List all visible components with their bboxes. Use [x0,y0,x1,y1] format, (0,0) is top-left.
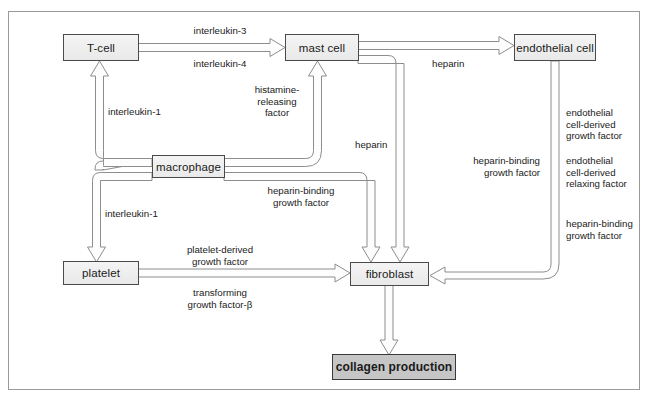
node-platelet-label: platelet [82,267,120,279]
node-collagen-production-label: collagen production [336,360,453,374]
node-macrophage[interactable]: macrophage [152,155,225,178]
edge-fibroblast-collagen [380,284,398,355]
node-collagen-production[interactable]: collagen production [332,354,456,380]
node-t-cell[interactable]: T-cell [63,34,139,61]
edge-label-histamine-releasing-factor: histamine- releasing factor [243,84,311,119]
node-fibroblast-label: fibroblast [366,268,414,280]
edge-label-heparin-binding-growth-factor-mid: heparin-binding growth factor [440,155,540,178]
node-endothelial-cell-label: endothelial cell [516,42,594,54]
edge-label-endothelial-cell-derived-growth-factor: endothelial cell-derived growth factor [566,107,650,142]
edge-label-interleukin-4: interleukin-4 [160,58,280,70]
edge-label-heparin-binding-growth-factor-macrophage: heparin-binding growth factor [246,185,356,208]
edge-label-endothelial-cell-derived-relaxing-factor: endothelial cell-derived relaxing factor [566,155,650,190]
edge-label-platelet-derived-growth-factor: platelet-derived growth factor [160,244,280,267]
edge-label-interleukin-3: interleukin-3 [160,25,280,37]
node-t-cell-label: T-cell [87,42,115,54]
edge-tcell-mastcell [138,39,285,57]
edge-label-heparin-endothelial: heparin [432,58,502,70]
edge-label-heparin-binding-growth-factor-lower: heparin-binding growth factor [566,218,650,241]
node-macrophage-label: macrophage [156,161,221,173]
edge-label-heparin-fibroblast: heparin [355,139,425,151]
diagram-canvas: .w{fill:#fdfdfd;stroke:#8d8d8d;stroke-wi… [0,0,650,400]
edge-label-interleukin-1-tcell: interleukin-1 [108,106,218,118]
edge-label-transforming-growth-factor-beta: transforming growth factor-β [160,287,280,310]
node-platelet[interactable]: platelet [63,261,139,285]
node-mast-cell-label: mast cell [299,42,345,54]
edge-mastcell-fibroblast [358,56,409,263]
node-mast-cell[interactable]: mast cell [285,34,359,61]
edge-mastcell-endothelial [358,37,514,55]
node-fibroblast[interactable]: fibroblast [350,262,429,286]
edge-label-interleukin-1-platelet: interleukin-1 [105,208,215,220]
node-endothelial-cell[interactable]: endothelial cell [514,34,596,61]
